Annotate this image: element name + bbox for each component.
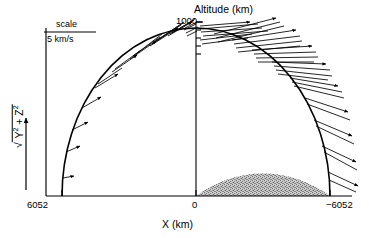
- velocity-vector-field: [63, 18, 358, 192]
- altitude-top-tick-label: 1000: [176, 15, 197, 26]
- altitude-axis: [196, 22, 203, 196]
- plot-title: Altitude (km): [194, 3, 253, 15]
- scale-bar-caption: scale: [56, 19, 77, 29]
- y-axis-label: √ Y2 + Z2: [12, 96, 25, 156]
- planet-shaded-region: [196, 20, 336, 200]
- vector-group-right-mid: [252, 46, 344, 98]
- y-exponent: 2: [12, 128, 19, 132]
- x-tick-label-left: 6052: [27, 199, 48, 210]
- x-axis-label: X (km): [162, 218, 193, 230]
- x-tick-label-right: −6052: [326, 199, 353, 210]
- radical-symbol: √: [12, 142, 24, 148]
- y-symbol: Y: [12, 132, 24, 139]
- scale-bar-value: 5 km/s: [47, 34, 74, 44]
- vector-group-right-upper: [200, 18, 302, 52]
- z-symbol: Z: [12, 109, 24, 115]
- figure-panel: Altitude (km) 1000 X (km) 6052 0 −6052 s…: [0, 0, 369, 238]
- x-tick-label-zero: 0: [192, 199, 197, 210]
- z-exponent: 2: [12, 105, 19, 109]
- axis-frame: [46, 28, 352, 196]
- vector-group-left-mid: [95, 34, 162, 88]
